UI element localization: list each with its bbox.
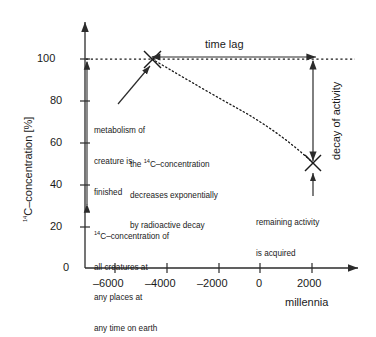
y-tick-label-20: 20 bbox=[50, 220, 62, 232]
exponential-decay-note-line1: the 14C–concentration bbox=[130, 156, 218, 170]
remaining-activity-note-line2: is acquired bbox=[256, 249, 319, 259]
y-axis-title: 14C–concentration [%] bbox=[22, 117, 34, 222]
remaining-activity-note: remaining activity is acquired bbox=[256, 198, 319, 280]
x-tick-label-minus2000: –2000 bbox=[197, 277, 228, 289]
exp-note-line1-rest: C–concentration bbox=[150, 160, 210, 169]
baseline-note-line2: all creatures at bbox=[94, 263, 169, 273]
baseline-concentration-note: 14C–concentration of all creatures at an… bbox=[94, 208, 169, 337]
time-lag-label: time lag bbox=[205, 38, 244, 50]
y-tick-label-0: 0 bbox=[63, 261, 69, 273]
y-axis-title-text: C–concentration [%] bbox=[22, 117, 34, 216]
baseline-note-line1-rest: C–concentration of bbox=[100, 232, 169, 241]
y-tick-label-100: 100 bbox=[37, 52, 55, 64]
exponential-decay-note-line2: decreases exponentially bbox=[130, 191, 218, 201]
baseline-note-line4: any time on earth bbox=[94, 324, 169, 334]
exp-note-the: the bbox=[130, 160, 144, 169]
baseline-note-line3: any places at bbox=[94, 293, 169, 303]
y-tick-label-60: 60 bbox=[50, 136, 62, 148]
x-axis-title: millennia bbox=[285, 296, 328, 308]
y-axis-title-superscript: 14 bbox=[22, 216, 28, 222]
baseline-note-line1: 14C–concentration of bbox=[94, 228, 169, 242]
metabolism-leader-arrow bbox=[118, 66, 150, 104]
remaining-activity-note-line1: remaining activity bbox=[256, 218, 319, 228]
decay-of-activity-label: decay of activity bbox=[330, 82, 342, 160]
y-tick-label-40: 40 bbox=[50, 178, 62, 190]
y-tick-label-80: 80 bbox=[50, 94, 62, 106]
